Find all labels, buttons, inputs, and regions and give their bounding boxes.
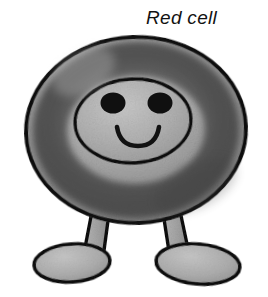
illustration-canvas: Red cell xyxy=(0,0,268,297)
right-foot xyxy=(154,240,241,287)
cell-body xyxy=(23,33,249,227)
right-eye xyxy=(148,93,173,114)
left-eye xyxy=(101,93,126,114)
red-cell-label: Red cell xyxy=(146,7,217,29)
red-cell-figure xyxy=(0,0,268,297)
left-foot xyxy=(33,241,111,284)
